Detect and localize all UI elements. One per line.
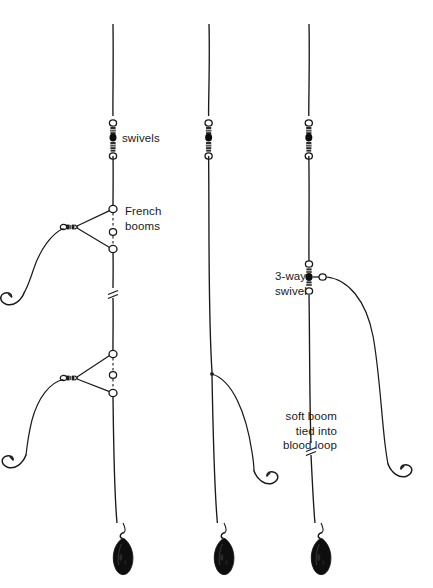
teardrop-weight [311,523,331,575]
three-way-swivel [305,261,326,294]
boom-arm-lower [77,379,110,392]
snood-line [212,374,254,471]
rig-french-boom [1,24,133,575]
main-line-segment [209,156,212,372]
hook [388,464,412,477]
boom-ring-top [109,205,117,212]
boom-ring-bottom [109,389,117,396]
boom-ring-bottom [109,245,117,252]
boom-ring-middle [109,372,116,379]
rig-illustration [0,0,433,588]
swivel-stack [205,120,212,159]
main-line-segment [311,455,315,523]
label-3-way-swivel: 3-way swivel [275,269,307,298]
rig-paternoster [205,24,278,575]
boom-arm-upper [77,211,110,226]
hook [2,455,26,468]
label-swivels: swivels [122,131,160,146]
boom-arm-upper [77,356,110,377]
swivel-stack [305,120,312,159]
soft-boom-branch [326,277,412,477]
teardrop-weight [113,523,133,575]
teardrop-weight [214,523,234,575]
hook [1,292,25,305]
label-soft-boom: soft boom tied into blood loop [253,409,337,453]
main-line-segment [309,24,310,116]
hook [254,471,278,484]
french-boom-lower [2,350,117,467]
boom-ring-middle [109,229,116,236]
label-french-booms: French booms [125,204,161,233]
boom-ring-top [109,350,117,357]
main-line-segment [212,376,217,523]
swivel-ring-top [305,261,312,267]
main-line-segment [209,24,210,116]
french-boom-upper [1,205,117,304]
swivel-side-ring [319,274,326,280]
main-line-segment [113,397,117,523]
snood-line [25,229,64,293]
snood-line [26,380,64,456]
line-break-mark [108,291,118,299]
rig-soft-boom [305,24,412,575]
boom-arm-lower [77,228,110,248]
swivel-stack [109,120,116,159]
diagram-canvas: swivels French booms 3-way swivel soft b… [0,0,433,588]
